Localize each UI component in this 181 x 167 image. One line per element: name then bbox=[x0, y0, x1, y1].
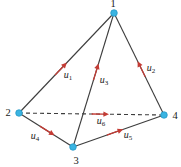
edge-line-2-4 bbox=[19, 113, 164, 115]
edge-label-u2: u2 bbox=[147, 62, 156, 75]
flow-arrow-shaft-u4 bbox=[40, 126, 50, 132]
tetrahedron-diagram: u1u2u3u4u5u61234 bbox=[0, 0, 181, 167]
flow-arrow-head-u6 bbox=[103, 111, 109, 116]
edge-label-u3: u3 bbox=[100, 74, 109, 87]
flow-arrow-shaft-u1 bbox=[55, 67, 63, 75]
vertex-label-4: 4 bbox=[172, 110, 178, 121]
vertex-dot-3 bbox=[70, 144, 77, 151]
vertex-label-3: 3 bbox=[73, 155, 78, 166]
vertex-label-2: 2 bbox=[5, 107, 10, 118]
flow-arrow-head-u5 bbox=[117, 129, 123, 134]
vertex-dot-4 bbox=[161, 112, 168, 119]
edge-label-u6: u6 bbox=[97, 115, 106, 128]
flow-arrow-shaft-u3 bbox=[93, 69, 96, 80]
edge-label-u1: u1 bbox=[64, 69, 73, 82]
flow-arrow-shaft-u5 bbox=[107, 131, 118, 135]
edge-label-u4: u4 bbox=[31, 130, 40, 143]
vertex-label-1: 1 bbox=[110, 0, 115, 9]
vertex-dot-1 bbox=[111, 10, 118, 17]
edge-label-u5: u5 bbox=[124, 129, 133, 142]
flow-arrow-shaft-u2 bbox=[140, 66, 145, 77]
vertex-dot-2 bbox=[16, 110, 23, 117]
tetrahedron-graph-svg: u1u2u3u4u5u61234 bbox=[0, 0, 181, 167]
